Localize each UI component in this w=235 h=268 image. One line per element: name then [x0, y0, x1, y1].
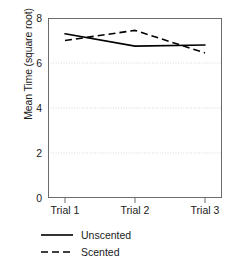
- x-axis-ticks: [65, 198, 205, 203]
- series-line-scented: [65, 30, 205, 53]
- series-line-unscented: [65, 34, 205, 46]
- legend-key-solid-line: [40, 229, 74, 241]
- legend-item-scented: Scented: [40, 243, 220, 260]
- gridlines: [48, 63, 222, 153]
- chart-legend: Unscented Scented: [40, 226, 220, 260]
- legend-item-unscented: Unscented: [40, 226, 220, 243]
- line-chart-figure: Mean Time (square root) 8 6 4 2 0 Tr: [0, 0, 235, 268]
- legend-key-dashed-line: [40, 246, 74, 258]
- legend-label-unscented: Unscented: [81, 229, 131, 241]
- legend-label-scented: Scented: [81, 246, 120, 258]
- x-tick-label-trial-2: Trial 2: [100, 205, 170, 216]
- x-tick-label-trial-3: Trial 3: [170, 205, 235, 216]
- x-tick-label-trial-1: Trial 1: [30, 205, 100, 216]
